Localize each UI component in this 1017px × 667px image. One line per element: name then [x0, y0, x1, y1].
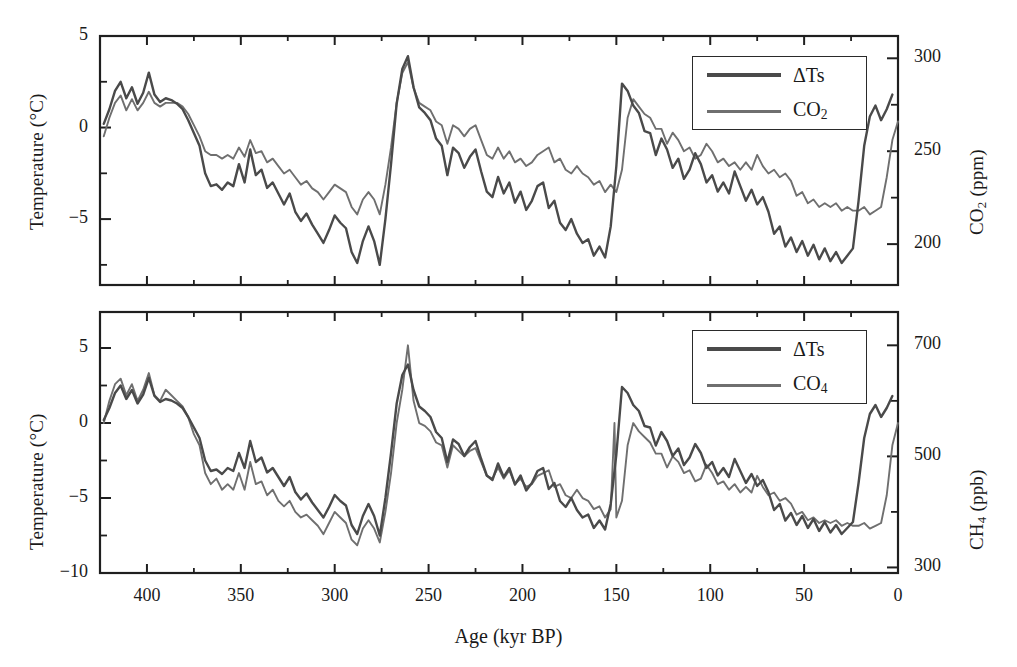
x-tick-3: 250: [389, 585, 469, 606]
legend-label-gas: CO2: [793, 98, 828, 123]
panel-co2-right-axis-title: CO2 (ppm): [966, 149, 990, 235]
legend-label-gas: CO4: [793, 372, 828, 397]
panel-ch4-left-tick-2: −5: [4, 486, 88, 507]
panel-ch4-left-tick-0: 5: [4, 336, 88, 357]
legend-swatch-dts: [707, 347, 781, 351]
panel-ch4-right-axis-title: CH4 (ppb): [966, 469, 990, 550]
panel-ch4-legend: ΔTsCO4: [692, 330, 867, 404]
legend-entry-gas: CO2: [693, 93, 866, 129]
x-tick-1: 350: [201, 585, 281, 606]
x-tick-7: 50: [764, 585, 844, 606]
climate-figure: Temperature (°C) CO2 (ppm) ΔTsCO2 50−530…: [0, 0, 1017, 667]
panel-co2-right-tick-0: 300: [914, 46, 941, 67]
legend-entry-dts: ΔTs: [693, 57, 866, 93]
panel-co2-right-tick-1: 250: [914, 139, 941, 160]
panel-co2-legend: ΔTsCO2: [692, 56, 867, 130]
panel-ch4-right-tick-1: 500: [914, 444, 941, 465]
x-tick-0: 400: [107, 585, 187, 606]
legend-entry-gas: CO4: [693, 367, 866, 403]
panel-co2-left-tick-1: 0: [4, 116, 88, 137]
x-axis-title: Age (kyr BP): [0, 625, 1017, 648]
panel-co2-right-tick-2: 200: [914, 232, 941, 253]
panel-ch4: Temperature (°C) CH4 (ppb) ΔTsCO4 Age (k…: [0, 300, 1017, 667]
panel-co2-left-tick-0: 5: [4, 24, 88, 45]
legend-swatch-gas: [707, 110, 781, 113]
legend-label-dts: ΔTs: [793, 338, 824, 361]
x-tick-4: 200: [482, 585, 562, 606]
panel-ch4-left-axis-title: Temperature (°C): [26, 413, 48, 550]
legend-swatch-gas: [707, 384, 781, 387]
panel-ch4-right-tick-2: 300: [914, 555, 941, 576]
x-tick-6: 100: [670, 585, 750, 606]
legend-swatch-dts: [707, 73, 781, 77]
panel-co2-left-tick-2: −5: [4, 207, 88, 228]
panel-ch4-right-tick-0: 700: [914, 333, 941, 354]
legend-label-dts: ΔTs: [793, 64, 824, 87]
x-tick-5: 150: [576, 585, 656, 606]
legend-entry-dts: ΔTs: [693, 331, 866, 367]
panel-ch4-left-tick-1: 0: [4, 411, 88, 432]
panel-co2-plot: [0, 0, 1017, 300]
panel-ch4-left-tick-3: −10: [4, 561, 88, 582]
x-tick-2: 300: [295, 585, 375, 606]
x-tick-8: 0: [858, 585, 938, 606]
panel-co2: Temperature (°C) CO2 (ppm) ΔTsCO2 50−530…: [0, 0, 1017, 300]
